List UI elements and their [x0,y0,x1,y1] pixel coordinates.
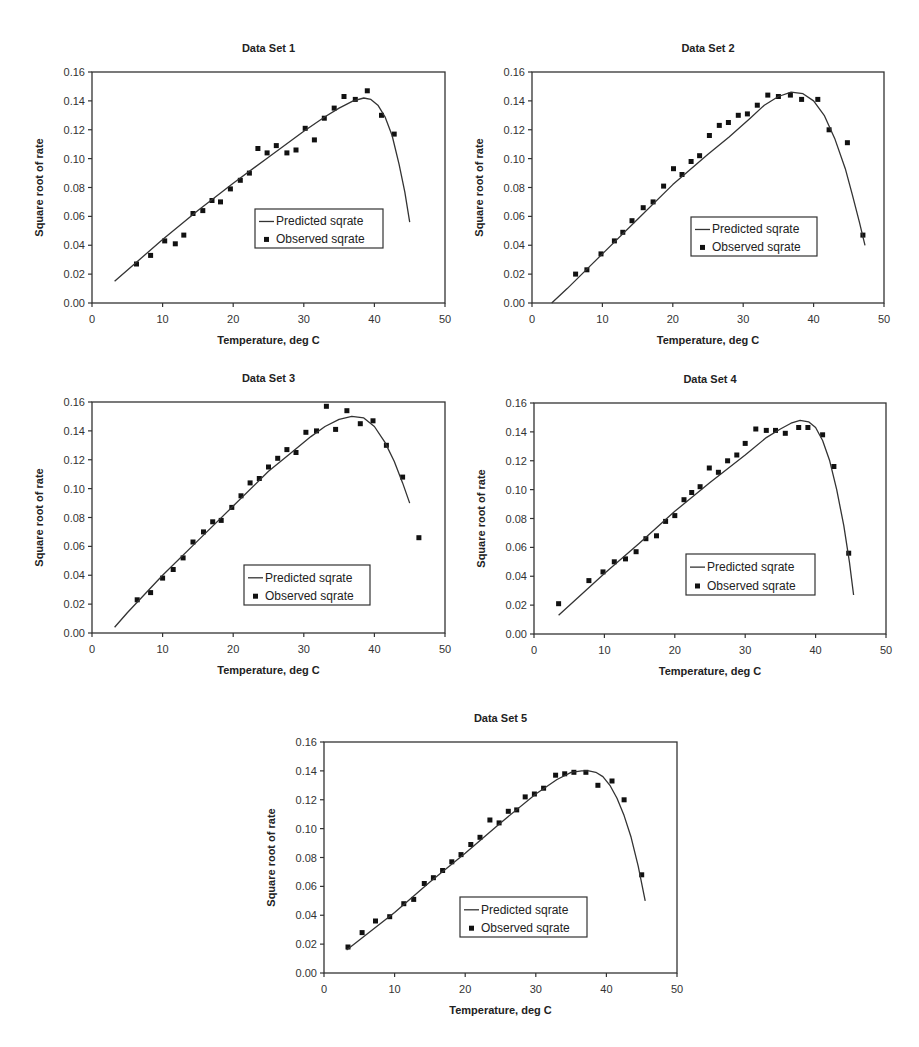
x-tick-label: 10 [598,644,610,656]
data-point [371,418,376,423]
y-tick-label: 0.04 [506,570,527,582]
data-point [622,797,627,802]
x-tick-label: 30 [298,643,310,655]
x-tick-label: 0 [529,313,535,325]
data-point [805,425,810,430]
data-point [707,133,712,138]
y-tick-label: 0.16 [296,736,317,748]
x-tick-label: 0 [531,644,537,656]
y-tick-label: 0.10 [506,484,527,496]
y-tick-label: 0.08 [64,512,85,524]
x-tick-label: 40 [600,983,612,995]
data-point [333,427,338,432]
data-point [523,794,528,799]
data-point [266,465,271,470]
data-point [734,453,739,458]
data-point [845,140,850,145]
data-point [682,497,687,502]
data-point [595,783,600,788]
data-point [275,456,280,461]
data-point [654,533,659,538]
data-point [181,233,186,238]
data-point [726,120,731,125]
y-tick-label: 0.16 [64,66,85,78]
data-point [365,88,370,93]
chart-panel-2: Data Set 20.000.020.040.060.080.100.120.… [460,0,919,355]
chart-title: Data Set 5 [474,712,527,724]
data-point [274,143,279,148]
y-tick-label: 0.08 [504,182,525,194]
data-point [173,241,178,246]
x-axis: 01020304050 [321,973,683,995]
data-point [743,441,748,446]
data-point [745,111,750,116]
y-tick-label: 0.10 [64,153,85,165]
data-point [342,94,347,99]
data-point [610,779,615,784]
x-tick-label: 20 [459,983,471,995]
legend-predicted-label: Predicted sqrate [707,560,795,574]
y-tick-label: 0.12 [64,454,85,466]
x-tick-label: 30 [530,983,542,995]
y-tick-label: 0.04 [504,239,525,251]
y-tick-label: 0.16 [504,66,525,78]
x-axis-label: Temperature, deg C [657,334,760,346]
y-tick-label: 0.12 [296,794,317,806]
data-point [344,408,349,413]
data-point [284,150,289,155]
y-tick-label: 0.06 [504,210,525,222]
x-tick-label: 30 [739,644,751,656]
legend: Predicted sqrateObserved sqrate [691,217,817,256]
data-point [689,159,694,164]
y-tick-label: 0.06 [506,541,527,553]
plot-area [92,72,445,303]
x-axis: 01020304050 [531,634,892,656]
legend-marker-icon [695,583,700,588]
y-tick-label: 0.04 [64,569,85,581]
x-tick-label: 40 [368,313,380,325]
chart-panel-5: Data Set 50.000.020.040.060.080.100.120.… [230,710,700,1047]
data-point [697,153,702,158]
x-tick-label: 10 [156,643,168,655]
data-point [689,490,694,495]
x-axis-label: Temperature, deg C [217,334,320,346]
data-point [303,430,308,435]
data-point [360,930,365,935]
x-tick-label: 0 [89,643,95,655]
data-point [506,809,511,814]
data-point [553,773,558,778]
plot-area [534,403,886,634]
y-tick-label: 0.16 [64,396,85,408]
y-tick-label: 0.10 [504,153,525,165]
legend: Predicted sqrateObserved sqrate [255,209,383,248]
data-point [312,137,317,142]
y-tick-label: 0.00 [64,297,85,309]
x-axis-label: Temperature, deg C [659,665,762,677]
y-tick-label: 0.02 [296,938,317,950]
data-point [218,199,223,204]
y-axis-label: Square root of rate [33,138,45,236]
y-tick-label: 0.14 [64,425,85,437]
data-point [671,166,676,171]
y-tick-label: 0.04 [64,239,85,251]
y-tick-label: 0.00 [504,297,525,309]
y-tick-label: 0.02 [506,599,527,611]
chart-title: Data Set 4 [683,373,737,385]
data-point [255,146,260,151]
legend: Predicted sqrateObserved sqrate [460,897,587,937]
data-point [487,818,492,823]
x-tick-label: 40 [809,644,821,656]
x-axis-label: Temperature, deg C [217,664,320,676]
data-point [641,205,646,210]
x-tick-label: 40 [807,313,819,325]
x-tick-label: 50 [880,644,892,656]
legend-observed-label: Observed sqrate [707,579,796,593]
x-axis-label: Temperature, deg C [449,1004,552,1016]
y-axis-label: Square root of rate [475,469,487,567]
legend-marker-icon [700,245,705,250]
x-tick-label: 10 [388,983,400,995]
y-tick-label: 0.06 [296,880,317,892]
y-tick-label: 0.10 [64,483,85,495]
x-tick-label: 10 [596,313,608,325]
y-tick-label: 0.14 [506,426,527,438]
